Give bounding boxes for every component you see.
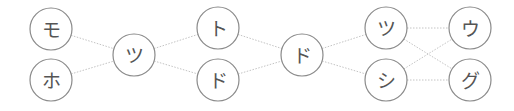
node-label: グ xyxy=(461,70,480,92)
node-label: シ xyxy=(377,70,396,92)
node-n5: ド xyxy=(281,34,323,76)
node-label: ツ xyxy=(377,18,396,40)
node-label: ホ xyxy=(42,70,61,92)
node-n9: グ xyxy=(449,59,491,101)
node-n2: ツ xyxy=(113,34,155,76)
node-n4: ド xyxy=(197,59,239,101)
node-n0: モ xyxy=(30,8,72,50)
node-label: ド xyxy=(293,45,312,67)
nodes-layer: モホツトドドツシウグ xyxy=(30,7,491,101)
node-label: ウ xyxy=(461,18,480,40)
node-label: モ xyxy=(42,19,61,41)
node-label: ツ xyxy=(125,45,144,67)
node-label: ド xyxy=(209,70,228,92)
katakana-graph: モホツトドドツシウグ xyxy=(0,0,514,111)
node-n3: ト xyxy=(197,7,239,49)
node-n6: ツ xyxy=(365,7,407,49)
node-n1: ホ xyxy=(30,59,72,101)
node-n8: ウ xyxy=(449,7,491,49)
node-n7: シ xyxy=(365,59,407,101)
node-label: ト xyxy=(209,18,228,40)
